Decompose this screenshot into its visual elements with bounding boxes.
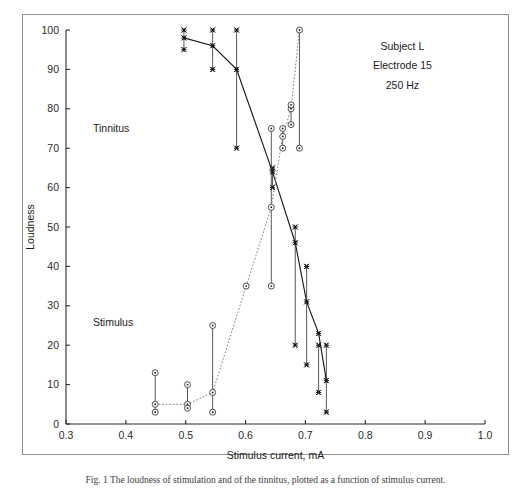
y-tick-label: 70	[47, 142, 59, 154]
marker-circle-dot	[288, 122, 294, 128]
axis-title-group: Stimulus current, mALoudness	[24, 204, 324, 461]
tick-group	[66, 30, 485, 424]
marker-circle-dot	[296, 27, 302, 33]
marker-circle-dot	[296, 145, 302, 151]
error-bars-tinnitus	[184, 30, 326, 412]
marker-circle-dot	[280, 126, 286, 132]
marker-circle-dot	[280, 133, 286, 139]
y-tick-label: 50	[47, 221, 59, 233]
marker-circle-dot	[268, 283, 274, 289]
marker-circle-dot	[152, 370, 158, 376]
series-inline-label: Tinnitus	[93, 122, 129, 134]
y-tick-label: 60	[47, 181, 59, 193]
y-axis-title: Loudness	[24, 204, 36, 250]
y-tick-label: 100	[41, 24, 59, 36]
x-tick-label: 0.7	[298, 429, 313, 441]
x-tick-label: 0.9	[418, 429, 433, 441]
x-tick-label: 1.0	[478, 429, 493, 441]
tick-label-group: 0.30.40.50.60.70.80.91.00102030405060708…	[41, 24, 492, 441]
series-line-stimulus	[155, 30, 299, 404]
marker-circle-dot	[210, 409, 216, 415]
axes-group	[66, 30, 485, 424]
annotation-text: Subject L	[381, 40, 425, 52]
marker-circle-dot	[243, 283, 249, 289]
marker-circle-dot	[210, 323, 216, 329]
marker-circle-dot	[268, 126, 274, 132]
y-tick-label: 10	[47, 378, 59, 390]
y-tick-label: 80	[47, 102, 59, 114]
chart-canvas: 0.30.40.50.60.70.80.91.00102030405060708…	[0, 0, 532, 490]
marker-circle-dot	[152, 409, 158, 415]
x-tick-label: 0.4	[119, 429, 134, 441]
series-stimulus	[152, 27, 302, 415]
y-tick-label: 40	[47, 260, 59, 272]
marker-circle-dot	[288, 102, 294, 108]
series-line-tinnitus	[184, 38, 326, 381]
y-tick-label: 90	[47, 63, 59, 75]
x-tick-label: 0.8	[358, 429, 373, 441]
series-inline-label: Stimulus	[93, 316, 133, 328]
markers-stimulus	[152, 27, 302, 415]
marker-circle-dot	[185, 405, 191, 411]
marker-circle-dot	[210, 389, 216, 395]
marker-circle-dot	[268, 204, 274, 210]
figure-caption: Fig. 1 The loudness of stimulation and o…	[22, 474, 509, 486]
figure-container: 0.30.40.50.60.70.80.91.00102030405060708…	[0, 0, 532, 490]
x-axis-title: Stimulus current, mA	[227, 449, 324, 461]
series-tinnitus	[181, 27, 329, 414]
marker-circle-dot	[185, 382, 191, 388]
marker-circle-dot	[280, 145, 286, 151]
annotation-group: Subject LElectrode 15250 HzTinnitusStimu…	[93, 40, 432, 328]
y-tick-label: 0	[53, 418, 59, 430]
x-tick-label: 0.5	[178, 429, 193, 441]
y-tick-label: 30	[47, 299, 59, 311]
y-tick-label: 20	[47, 339, 59, 351]
error-bars-stimulus	[155, 30, 299, 412]
series-group	[152, 27, 329, 415]
annotation-text: 250 Hz	[386, 79, 419, 91]
marker-circle-dot	[152, 401, 158, 407]
x-tick-label: 0.6	[238, 429, 253, 441]
x-tick-label: 0.3	[59, 429, 74, 441]
annotation-text: Electrode 15	[373, 59, 432, 71]
